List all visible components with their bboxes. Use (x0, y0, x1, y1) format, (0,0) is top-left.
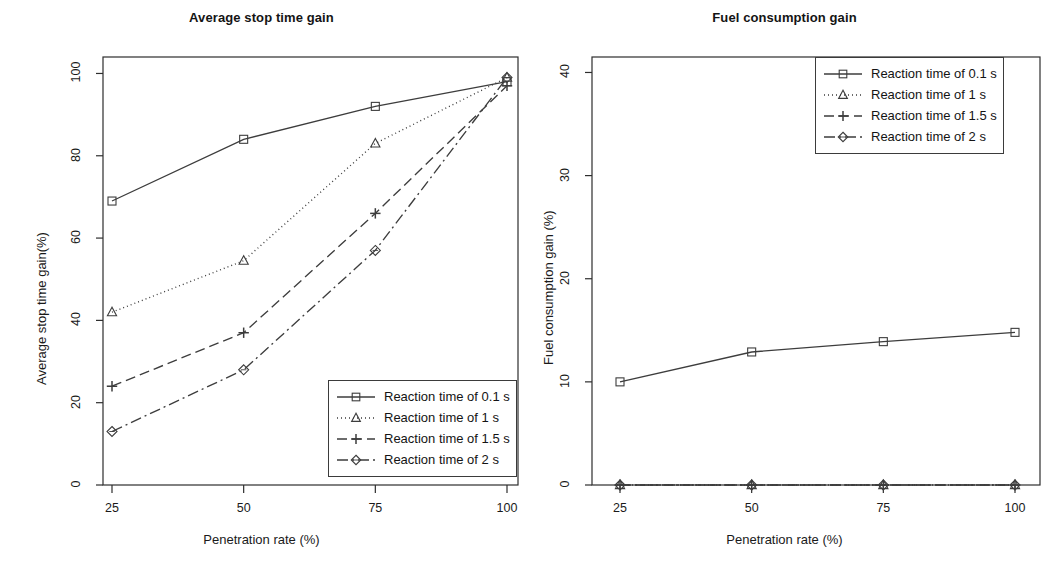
x-tick-label: 75 (350, 501, 400, 515)
legend-right: Reaction time of 0.1 sReaction time of 1… (815, 57, 1004, 154)
triangle-marker (839, 90, 848, 98)
x-axis-title: Penetration rate (%) (523, 532, 1046, 547)
legend-row: Reaction time of 2 s (823, 126, 994, 147)
legend-key (823, 127, 863, 147)
plus-marker (107, 381, 117, 391)
legend-left: Reaction time of 0.1 sReaction time of 1… (328, 380, 517, 477)
legend-label: Reaction time of 2 s (871, 130, 986, 143)
triangle-marker (371, 138, 380, 147)
legend-label: Reaction time of 1 s (384, 411, 499, 424)
diamond-marker (107, 427, 117, 437)
legend-row: Reaction time of 0.1 s (336, 386, 507, 407)
legend-row: Reaction time of 1.5 s (823, 105, 994, 126)
legend-label: Reaction time of 1 s (871, 88, 986, 101)
y-tick-label: 60 (69, 220, 83, 254)
legend-key (823, 106, 863, 126)
y-axis-title: Average stop time gain(%) (34, 232, 49, 385)
triangle-marker (239, 256, 248, 265)
y-tick-label: 30 (558, 158, 572, 192)
y-tick-label: 0 (558, 467, 572, 501)
legend-key (336, 429, 376, 449)
series-line (112, 78, 507, 313)
legend-key (823, 85, 863, 105)
y-tick-label: 40 (558, 54, 572, 88)
legend-row: Reaction time of 1 s (336, 407, 507, 428)
series-line (620, 332, 1015, 382)
triangle-marker (107, 307, 116, 316)
y-tick-label: 100 (69, 55, 83, 89)
y-tick-label: 20 (69, 385, 83, 419)
legend-row: Reaction time of 1.5 s (336, 428, 507, 449)
legend-key (336, 450, 376, 470)
legend-label: Reaction time of 2 s (384, 453, 499, 466)
x-tick-label: 25 (87, 501, 137, 515)
legend-label: Reaction time of 0.1 s (384, 390, 510, 403)
y-tick-label: 10 (558, 364, 572, 398)
series-line (112, 86, 507, 386)
y-tick-label: 80 (69, 138, 83, 172)
y-tick-label: 20 (558, 261, 572, 295)
series-line (112, 82, 507, 201)
x-tick-label: 50 (219, 501, 269, 515)
series-line (112, 78, 507, 432)
legend-row: Reaction time of 0.1 s (823, 63, 994, 84)
x-tick-label: 50 (727, 501, 777, 515)
x-tick-label: 100 (990, 501, 1040, 515)
plus-marker (238, 328, 248, 338)
square-marker (108, 197, 116, 205)
plus-marker (838, 111, 848, 121)
x-tick-label: 75 (858, 501, 908, 515)
y-tick-label: 0 (69, 467, 83, 501)
legend-label: Reaction time of 1.5 s (871, 109, 997, 122)
legend-row: Reaction time of 2 s (336, 449, 507, 470)
triangle-marker (352, 413, 361, 421)
legend-key (336, 387, 376, 407)
legend-key (823, 64, 863, 84)
legend-label: Reaction time of 0.1 s (871, 67, 997, 80)
plus-marker (351, 434, 361, 444)
figure-container: Average stop time gain Penetration rate … (0, 0, 1046, 577)
legend-label: Reaction time of 1.5 s (384, 432, 510, 445)
legend-row: Reaction time of 1 s (823, 84, 994, 105)
x-tick-label: 25 (595, 501, 645, 515)
panel-average-stop-time-gain: Average stop time gain Penetration rate … (0, 0, 523, 577)
y-axis-title: Fuel consumption gain (%) (541, 210, 556, 365)
x-axis-title: Penetration rate (%) (0, 532, 523, 547)
panel-fuel-consumption-gain: Fuel consumption gain Penetration rate (… (523, 0, 1046, 577)
y-tick-label: 40 (69, 302, 83, 336)
legend-key (336, 408, 376, 428)
